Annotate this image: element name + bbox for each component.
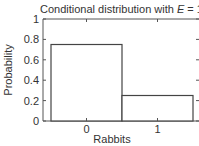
x-axis-label: Rabbits: [93, 133, 131, 145]
y-tick-label: 0.4: [24, 74, 39, 86]
bars: [51, 45, 193, 122]
y-tick-label: 1: [33, 13, 39, 25]
bar-1: [122, 96, 193, 122]
chart-title: Conditional distribution with E = 1: [40, 3, 199, 15]
x-tick-label: 1: [154, 123, 160, 135]
x-tick-label: 0: [83, 123, 89, 135]
bar-chart: Conditional distribution with E = 1 00.2…: [0, 0, 199, 146]
y-axis-label: Probability: [2, 44, 14, 96]
bar-0: [51, 45, 122, 122]
y-tick-label: 0.6: [24, 54, 39, 66]
y-tick-label: 0.2: [24, 95, 39, 107]
y-tick-label: 0.8: [24, 33, 39, 45]
y-tick-label: 0: [33, 115, 39, 127]
